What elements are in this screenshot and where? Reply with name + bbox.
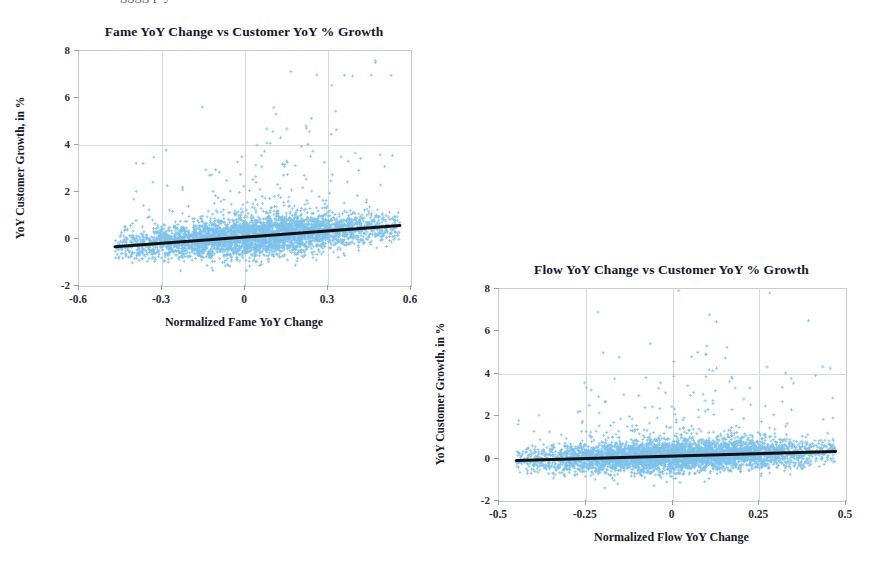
y-axis-tick-mark <box>74 97 79 98</box>
x-axis-tick-mark <box>498 500 499 505</box>
x-axis-tick-label: 0.3 <box>320 293 334 305</box>
x-axis-tick-label: 0.25 <box>748 508 768 520</box>
scatter-chart-fame: Fame YoY Change vs Customer YoY % Growth… <box>0 8 430 338</box>
x-axis-tick-mark <box>410 285 411 290</box>
x-axis-label: Normalized Flow YoY Change <box>498 530 845 545</box>
y-axis-tick-mark <box>494 415 499 416</box>
plot-area <box>78 50 412 287</box>
y-axis-tick-mark <box>74 191 79 192</box>
x-axis-tick-mark <box>758 500 759 505</box>
figure-page: gggg p y Fame YoY Change vs Customer YoY… <box>0 0 872 571</box>
x-axis-tick-mark <box>161 285 162 290</box>
y-axis-tick-mark <box>74 144 79 145</box>
trend-line <box>79 51 411 286</box>
y-axis-tick-label: 6 <box>462 324 490 336</box>
y-axis-tick-label: 2 <box>42 185 70 197</box>
y-axis-tick-mark <box>494 373 499 374</box>
x-axis-tick-label: -0.5 <box>489 508 507 520</box>
clipped-header-text: gggg p y <box>120 0 760 4</box>
x-axis-tick-mark <box>845 500 846 505</box>
x-axis-label: Normalized Fame YoY Change <box>78 315 410 330</box>
y-axis-tick-label: 4 <box>42 138 70 150</box>
x-axis-tick-label: 0.6 <box>403 293 417 305</box>
x-axis-tick-label: -0.25 <box>573 508 597 520</box>
x-axis-tick-mark <box>78 285 79 290</box>
y-axis-tick-mark <box>494 288 499 289</box>
x-axis-tick-label: -0.3 <box>152 293 170 305</box>
y-axis-tick-mark <box>494 330 499 331</box>
y-axis-tick-mark <box>74 50 79 51</box>
chart-title: Fame YoY Change vs Customer YoY % Growth <box>78 24 410 40</box>
x-axis-tick-label: 0.5 <box>838 508 852 520</box>
y-axis-tick-label: -2 <box>42 279 70 291</box>
x-axis-tick-mark <box>585 500 586 505</box>
y-axis-tick-label: -2 <box>462 494 490 506</box>
y-axis-tick-label: 0 <box>42 232 70 244</box>
scatter-chart-flow: Flow YoY Change vs Customer YoY % Growth… <box>440 248 872 568</box>
x-axis-tick-label: 0 <box>241 293 247 305</box>
x-axis-tick-label: 0 <box>669 508 675 520</box>
y-axis-label: YoY Customer Growth, in % <box>14 96 26 239</box>
x-axis-tick-label: -0.6 <box>69 293 87 305</box>
trend-line <box>499 289 846 501</box>
y-axis-tick-label: 6 <box>42 91 70 103</box>
y-axis-tick-label: 8 <box>462 282 490 294</box>
y-axis-tick-label: 2 <box>462 409 490 421</box>
y-axis-tick-label: 0 <box>462 452 490 464</box>
chart-title: Flow YoY Change vs Customer YoY % Growth <box>498 262 845 278</box>
x-axis-tick-mark <box>244 285 245 290</box>
y-axis-tick-mark <box>74 238 79 239</box>
x-axis-tick-mark <box>672 500 673 505</box>
y-axis-tick-mark <box>494 458 499 459</box>
x-axis-tick-mark <box>327 285 328 290</box>
y-axis-tick-label: 4 <box>462 367 490 379</box>
plot-area <box>498 288 847 502</box>
y-axis-label: YoY Customer Growth, in % <box>434 323 446 466</box>
y-axis-tick-label: 8 <box>42 44 70 56</box>
